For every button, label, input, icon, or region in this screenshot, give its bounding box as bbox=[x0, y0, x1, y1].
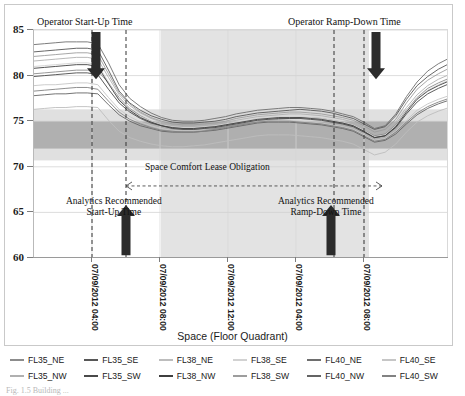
x-axis-tick-mark bbox=[227, 257, 228, 262]
legend-item-fl35_nw[interactable]: FL35_NW bbox=[10, 371, 84, 381]
y-axis-tick-mark bbox=[27, 211, 33, 212]
y-axis-tick-mark bbox=[27, 120, 33, 121]
legend-label: FL35_SW bbox=[102, 371, 140, 381]
legend-swatch bbox=[382, 375, 396, 377]
legend-label: FL35_NW bbox=[28, 371, 67, 381]
legend-label: FL40_SE bbox=[400, 355, 436, 365]
legend-label: FL38_NW bbox=[177, 371, 216, 381]
figure-caption: Fig. 1.5 Building ... bbox=[6, 386, 69, 395]
legend-swatch bbox=[233, 359, 247, 361]
x-axis-tick-label: 07/09/2012 04:00 bbox=[294, 264, 304, 331]
legend-swatch bbox=[382, 359, 396, 361]
legend-item-fl35_se[interactable]: FL35_SE bbox=[84, 355, 158, 365]
x-axis-tick-mark bbox=[363, 257, 364, 262]
y-axis-tick-label: 70 bbox=[0, 160, 24, 171]
y-axis-tick-label: 65 bbox=[0, 206, 24, 217]
legend-item-fl40_se[interactable]: FL40_SE bbox=[382, 355, 456, 365]
annotation-analytics-ramp-down: Analytics Recommended Ramp-Down Time bbox=[278, 196, 374, 218]
y-axis-tick-label: 85 bbox=[0, 24, 24, 35]
annotation-lease-obligation: Space Comfort Lease Obligation bbox=[145, 162, 270, 173]
analytics-start-line-2: Start-Up Time bbox=[66, 207, 162, 218]
chart-svg bbox=[34, 30, 448, 257]
legend-label: FL40_SW bbox=[400, 371, 438, 381]
legend-swatch bbox=[10, 375, 24, 377]
y-axis-tick-mark bbox=[27, 166, 33, 167]
x-axis-tick-label: 07/09/2012 04:00 bbox=[90, 264, 100, 331]
y-axis-tick-mark bbox=[27, 75, 33, 76]
x-axis-title: Space (Floor Quadrant) bbox=[0, 330, 465, 342]
legend-swatch bbox=[84, 359, 98, 361]
y-axis-tick-mark bbox=[27, 29, 33, 30]
x-axis-tick-mark bbox=[159, 257, 160, 262]
legend-item-fl38_sw[interactable]: FL38_SW bbox=[233, 371, 307, 381]
annotation-operator-ramp-down: Operator Ramp-Down Time bbox=[288, 16, 401, 27]
legend-swatch bbox=[84, 375, 98, 377]
analytics-start-line-1: Analytics Recommended bbox=[66, 196, 162, 207]
figure-container: 606570758085 07/09/2012 04:0007/09/2012 … bbox=[0, 0, 465, 396]
legend-swatch bbox=[10, 359, 24, 361]
legend-item-fl40_ne[interactable]: FL40_NE bbox=[307, 355, 381, 365]
operator-ramp-down-arrow bbox=[367, 32, 385, 79]
legend-item-fl38_nw[interactable]: FL38_NW bbox=[159, 371, 233, 381]
x-axis-tick-label: 07/09/2012 08:00 bbox=[362, 264, 372, 331]
legend-label: FL38_NE bbox=[177, 355, 213, 365]
y-axis-tick-label: 75 bbox=[0, 115, 24, 126]
legend-swatch bbox=[159, 375, 173, 377]
legend-label: FL38_SW bbox=[251, 371, 289, 381]
annotation-operator-start-up: Operator Start-Up Time bbox=[37, 16, 133, 27]
x-axis-line bbox=[33, 257, 448, 258]
y-axis-tick-label: 60 bbox=[0, 252, 24, 263]
legend-swatch bbox=[233, 375, 247, 377]
y-axis-tick-label: 80 bbox=[0, 69, 24, 80]
legend-swatch bbox=[307, 359, 321, 361]
legend-label: FL35_SE bbox=[102, 355, 138, 365]
legend-item-fl40_sw[interactable]: FL40_SW bbox=[382, 371, 456, 381]
legend-label: FL35_NE bbox=[28, 355, 64, 365]
legend-swatch bbox=[307, 375, 321, 377]
x-axis-tick-label: 07/09/2012 12:00 bbox=[226, 264, 236, 331]
annotation-analytics-start-up: Analytics Recommended Start-Up Time bbox=[66, 196, 162, 218]
x-axis-tick-mark bbox=[295, 257, 296, 262]
legend-swatch bbox=[159, 359, 173, 361]
x-axis-tick-mark bbox=[91, 257, 92, 262]
analytics-ramp-line-1: Analytics Recommended bbox=[278, 196, 374, 207]
legend-item-fl38_ne[interactable]: FL38_NE bbox=[159, 355, 233, 365]
legend-label: FL40_NE bbox=[325, 355, 361, 365]
legend-item-fl35_ne[interactable]: FL35_NE bbox=[10, 355, 84, 365]
analytics-ramp-line-2: Ramp-Down Time bbox=[278, 207, 374, 218]
legend-label: FL40_NW bbox=[325, 371, 364, 381]
chart-plot-area bbox=[33, 29, 448, 257]
legend-item-fl35_sw[interactable]: FL35_SW bbox=[84, 371, 158, 381]
legend-item-fl38_se[interactable]: FL38_SE bbox=[233, 355, 307, 365]
chart-legend: FL35_NEFL35_SEFL38_NEFL38_SEFL40_NEFL40_… bbox=[10, 352, 456, 384]
legend-label: FL38_SE bbox=[251, 355, 287, 365]
x-axis-tick-label: 07/09/2012 08:00 bbox=[158, 264, 168, 331]
legend-item-fl40_nw[interactable]: FL40_NW bbox=[307, 371, 381, 381]
